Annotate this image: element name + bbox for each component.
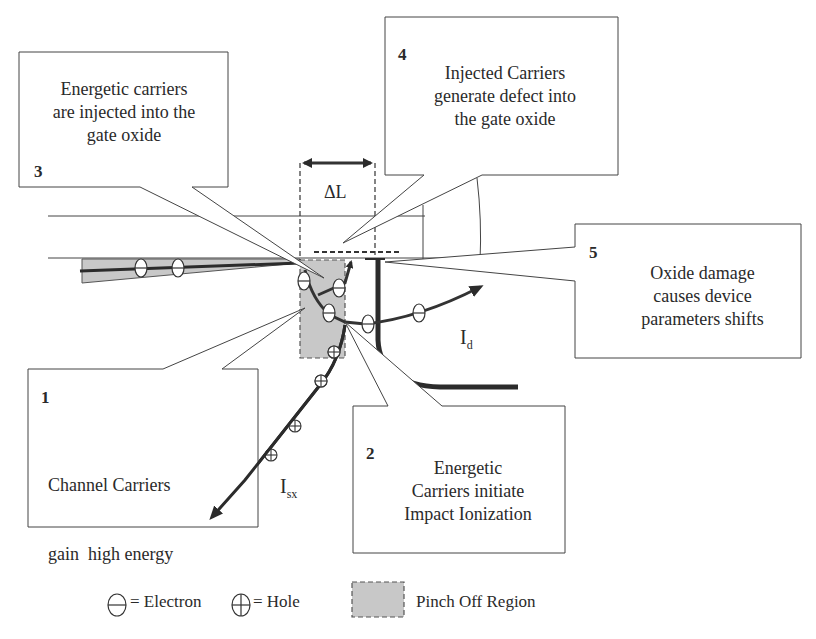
substrate-current-label: Isx (280, 475, 297, 498)
electron-icon (333, 279, 345, 297)
callout-4-number: 4 (398, 45, 407, 65)
electron-icon (135, 259, 147, 277)
legend-hole-label: = Hole (253, 592, 300, 612)
electron-icon (323, 304, 335, 322)
legend-pinch-off-swatch (352, 582, 404, 617)
electron-icon (298, 272, 310, 290)
electron-icon (172, 259, 184, 277)
delta-l-label: ΔL (324, 182, 347, 203)
drain-junction-curve (378, 260, 518, 387)
spacer-edge-line (477, 178, 481, 262)
legend-electron-label: = Electron (130, 592, 201, 612)
callout-5-text: Oxide damage causes device parameters sh… (615, 262, 790, 331)
callout-2-text: Energetic Carriers initiate Impact Ioniz… (378, 457, 558, 526)
electron-icon (413, 304, 425, 322)
drain-current-label: Id (460, 326, 473, 349)
legend-pinch-off-label: Pinch Off Region (416, 592, 536, 612)
legend-hole-icon (232, 594, 250, 616)
callout-4-text: Injected Carriers generate defect into t… (410, 62, 600, 131)
callout-1-text: Channel Carriers gain high energy (48, 428, 228, 589)
callout-3-number: 3 (34, 162, 43, 182)
callout-1-number: 1 (41, 388, 50, 408)
callout-5-number: 5 (589, 243, 598, 263)
callout-2-number: 2 (366, 444, 375, 464)
legend-electron-icon (108, 594, 126, 616)
callout-3-text: Energetic carriers are injected into the… (28, 78, 220, 147)
electron-icon (362, 315, 374, 333)
